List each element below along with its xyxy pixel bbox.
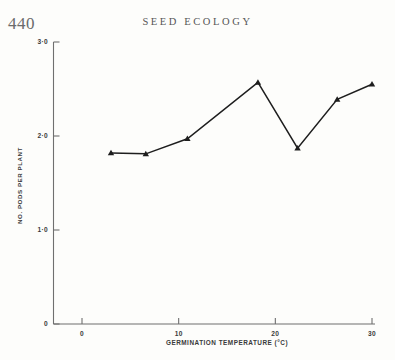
x-axis-tick-label: 20 (262, 330, 288, 337)
x-axis-ticks (82, 318, 372, 324)
y-axis-tick-label: 1·0 (20, 226, 48, 233)
data-series-line (111, 82, 372, 153)
data-point-marker (255, 79, 261, 85)
chart-plot-area (0, 0, 395, 360)
x-axis-tick-label: 10 (166, 330, 192, 337)
x-axis-title: GERMINATION TEMPERATURE (°C) (82, 339, 372, 346)
data-point-marker (369, 81, 375, 87)
x-axis-tick-label: 30 (359, 330, 385, 337)
x-axis-tick-label: 0 (69, 330, 95, 337)
y-axis-ticks (54, 42, 60, 324)
y-axis-title: NO. PODS PER PLANT (16, 121, 23, 251)
y-axis-tick-label: 2·0 (20, 132, 48, 139)
y-axis-tick-label: 0 (20, 320, 48, 327)
figure-line-chart: 01·02·03·0 0102030 NO. PODS PER PLANT GE… (0, 0, 395, 360)
data-point-markers (108, 79, 375, 156)
page-canvas: 440 SEED ECOLOGY 01·02·03·0 0102030 NO. … (0, 0, 395, 360)
y-axis-tick-label: 3·0 (20, 38, 48, 45)
